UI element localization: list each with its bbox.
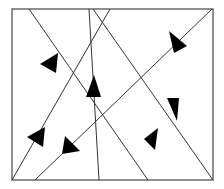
directed-lines-diagram — [0, 0, 224, 189]
diagram-line-4 — [93, 9, 213, 180]
arrow-5-arrowhead-icon — [169, 31, 187, 53]
arrowhead-group — [27, 31, 187, 154]
frame-rectangle — [12, 9, 213, 180]
arrow-7-arrowhead-icon — [144, 128, 158, 150]
arrow-1-arrowhead-icon — [40, 53, 58, 73]
arrow-3-arrowhead-icon — [27, 127, 45, 147]
line-group — [12, 9, 213, 180]
arrow-2-arrowhead-icon — [86, 75, 101, 97]
